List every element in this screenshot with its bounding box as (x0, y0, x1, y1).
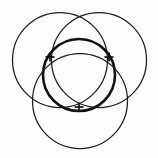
geometric-diagram (0, 0, 158, 158)
figure-container: Three overlapping circles with inscribed… (0, 0, 158, 158)
top-left-circle (13, 13, 108, 108)
top-right-circle (52, 13, 147, 108)
